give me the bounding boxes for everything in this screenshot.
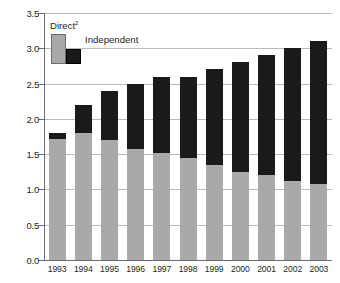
bar-segment-independent-1994 (75, 105, 92, 133)
y-tick-label: 1.0 (26, 184, 39, 195)
bar-segment-independent-1996 (127, 84, 144, 149)
bar-segment-direct-1993 (49, 139, 66, 260)
bar-segment-independent-1999 (206, 69, 223, 164)
bar-2000 (232, 62, 249, 260)
bar-segment-independent-2002 (284, 48, 301, 181)
bar-segment-independent-2001 (258, 55, 275, 175)
y-tick-label: 1.5 (26, 149, 39, 160)
bar-segment-direct-1995 (101, 140, 118, 260)
bar-1995 (101, 91, 118, 260)
legend-label-direct: Direct2 (50, 20, 78, 31)
bar-1996 (127, 84, 144, 260)
y-tick-label: 2.5 (26, 78, 39, 89)
bar-segment-direct-2001 (258, 175, 275, 260)
bar-segment-direct-1996 (127, 149, 144, 261)
bar-segment-direct-1999 (206, 165, 223, 260)
bar-1999 (206, 69, 223, 260)
y-tick-label: 3.0 (26, 43, 39, 54)
bar-segment-direct-2003 (310, 184, 327, 260)
bar-segment-independent-1997 (153, 77, 170, 153)
bar-segment-independent-1995 (101, 91, 118, 140)
bar-segment-independent-2000 (232, 62, 249, 171)
bar-segment-direct-2002 (284, 181, 301, 260)
gridline-0 (44, 260, 332, 261)
bar-1998 (180, 77, 197, 260)
x-tick-label-2003: 2003 (299, 264, 339, 274)
legend-footnote-marker: 2 (75, 20, 78, 26)
legend-label-independent: Independent (85, 34, 138, 45)
bar-segment-direct-1997 (153, 153, 170, 260)
bar-segment-independent-1998 (180, 77, 197, 158)
bar-segment-direct-1994 (75, 133, 92, 260)
stacked-bar-chart: 0.00.51.01.52.02.53.03.5 199319941995199… (0, 0, 340, 283)
bar-segment-direct-2000 (232, 172, 249, 260)
y-tick-label: 3.5 (26, 8, 39, 19)
bar-1994 (75, 105, 92, 260)
legend-swatch-direct (51, 34, 66, 64)
bar-segment-independent-2003 (310, 41, 327, 184)
legend-label-direct-text: Direct (50, 20, 75, 31)
y-tick-label: 2.0 (26, 113, 39, 124)
bar-1993 (49, 133, 66, 260)
bar-1997 (153, 77, 170, 260)
bar-series-group (44, 13, 332, 260)
y-tick-label: 0.5 (26, 219, 39, 230)
legend-swatch-independent (66, 49, 81, 64)
bar-2003 (310, 41, 327, 260)
bar-2001 (258, 55, 275, 260)
bar-segment-direct-1998 (180, 158, 197, 260)
bar-2002 (284, 48, 301, 260)
